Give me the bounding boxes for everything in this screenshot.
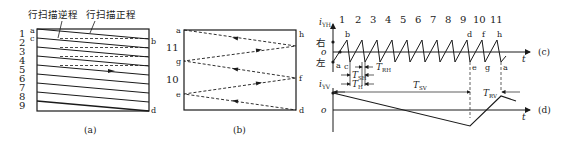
line-number-11: 11	[166, 42, 179, 53]
point-b: b	[151, 37, 156, 46]
point-g: g	[176, 57, 181, 66]
label-t-h: TH	[352, 79, 363, 90]
point-a: a	[176, 26, 181, 35]
retrace-arrow-icon	[256, 81, 262, 86]
line-number-5: 5	[400, 14, 406, 25]
point-d: d	[151, 106, 156, 115]
t-label: t	[522, 112, 526, 122]
label-t-rv: TRV	[483, 88, 498, 99]
caption-c: (c)	[538, 47, 550, 57]
y-label-iyh: iYH	[319, 17, 331, 28]
line-number-2: 2	[355, 14, 361, 25]
line-number-3: 3	[370, 14, 376, 25]
tv-scan-diagram: 行扫描逆程 行扫描正程 a c b d 1 2 3 4 5 6 7 8 9 (a…	[0, 0, 561, 151]
panel-a-line-scan-raster: 行扫描逆程 行扫描正程 a c b d 1 2 3 4 5 6 7 8 9 (a…	[19, 9, 156, 135]
line-number-7: 7	[430, 14, 436, 25]
point-h: h	[299, 30, 304, 39]
label-line-retrace: 行扫描逆程	[28, 9, 78, 20]
line-number-6: 6	[415, 14, 421, 25]
label-t-rh: TRH	[376, 62, 391, 73]
scan-direction-arrow-icon	[108, 69, 115, 73]
point-a: a	[336, 61, 341, 70]
point-c: c	[30, 34, 35, 43]
retrace-arrow-icon	[256, 48, 262, 53]
line-number-10: 10	[166, 74, 179, 85]
point-a-end: a	[503, 63, 508, 72]
point-c: c	[344, 62, 349, 71]
panel-b-frame	[184, 30, 296, 110]
line-number-10: 10	[473, 14, 486, 25]
point-h: h	[497, 30, 502, 39]
point-e: e	[176, 90, 181, 99]
point-f: f	[482, 30, 486, 39]
line-number-4: 4	[385, 14, 391, 25]
line-number-9: 9	[19, 100, 25, 111]
t-label: t	[522, 54, 526, 64]
point-f: f	[299, 74, 303, 83]
label-left: 左	[316, 57, 326, 68]
origin-label: o	[321, 105, 327, 115]
panel-b-field-retrace: a g e h f d 11 10 (b)	[166, 26, 304, 135]
line-number-11: 11	[490, 14, 503, 25]
caption-b: (b)	[233, 125, 246, 135]
retrace-arrow-icon	[232, 67, 238, 72]
line-number-9: 9	[460, 14, 466, 25]
caption-d: (d)	[538, 105, 551, 115]
caption-a: (a)	[84, 125, 96, 135]
point-d: d	[299, 106, 304, 115]
leader-trace	[90, 21, 95, 33]
line-number-1: 1	[339, 14, 345, 25]
point-g: g	[485, 63, 490, 72]
y-label-iyv: iYV	[319, 79, 331, 90]
label-t-sv: TSV	[413, 80, 428, 91]
panel-c-horizontal-current: iYH 右 o 左 t (c) 1 2 3 4 5 6 7 8 9 10 11 …	[316, 14, 550, 118]
point-b: b	[345, 30, 350, 39]
origin-label: o	[321, 47, 327, 57]
point-e: e	[472, 63, 477, 72]
line-number-8: 8	[445, 14, 451, 25]
point-d: d	[467, 30, 472, 39]
label-line-trace: 行扫描正程	[86, 9, 136, 20]
retrace-arrow-icon	[232, 36, 238, 41]
